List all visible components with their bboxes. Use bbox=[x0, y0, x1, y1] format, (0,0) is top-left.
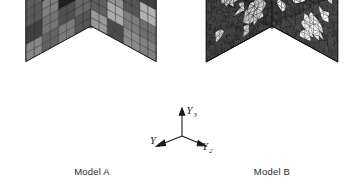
model-a-left-face bbox=[26, 0, 91, 62]
model-b-caption: Model B bbox=[188, 166, 356, 177]
model-a-caption: Model A bbox=[8, 166, 176, 177]
figure-canvas: Y 3 Y 1 Y 2 Model A Model B bbox=[0, 0, 364, 188]
axis-label-y1-subscript: 1 bbox=[157, 141, 161, 149]
axis-arrow-y3 bbox=[179, 108, 184, 115]
model-a-illustration bbox=[8, 4, 176, 188]
axis-label-y2: Y bbox=[202, 141, 209, 152]
model-a-right-face bbox=[91, 0, 156, 62]
model-b-illustration bbox=[188, 4, 356, 188]
axis-label-y3-subscript: 3 bbox=[193, 111, 198, 119]
axis-label-y3: Y bbox=[187, 105, 194, 116]
axis-label-y2-subscript: 2 bbox=[209, 147, 213, 155]
axis-label-y1: Y bbox=[150, 135, 157, 146]
coordinate-triad: Y 3 Y 1 Y 2 bbox=[150, 100, 214, 152]
